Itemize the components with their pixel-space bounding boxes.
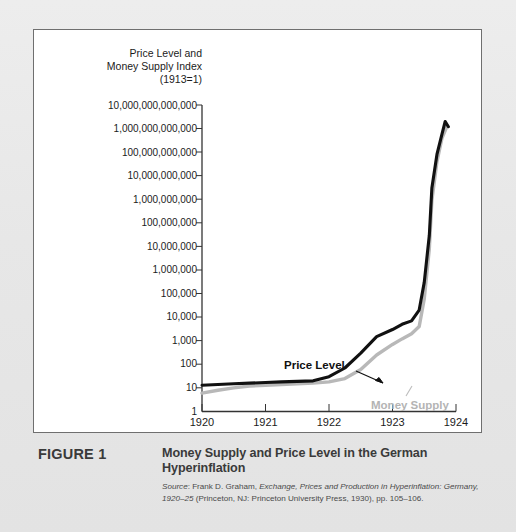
xtick-label: 1922 [317,416,341,428]
ytick-label: 1,000,000,000 [133,194,197,205]
ytick-label: 10,000,000,000,000 [108,100,197,111]
leader-arrow-price-level [376,378,384,384]
ytick-label: 10 [186,382,198,393]
source-work-years: 1920–25 [162,494,194,503]
axis-title-line-1: Price Level and [130,47,203,59]
annotation-money-supply: Money Supply [371,399,450,411]
axis-title-line-3: (1913=1) [160,73,202,85]
ytick-label: 1,000,000,000,000 [114,123,198,134]
ytick-label: 1,000,000 [153,264,198,275]
ytick-label: 1,000 [172,335,197,346]
ytick-label: 10,000,000,000 [127,170,197,181]
xtick-label: 1923 [380,416,404,428]
chart-panel: Price Level and Money Supply Index (1913… [33,29,482,433]
xtick-label: 1924 [444,416,468,428]
xtick-label: 1920 [190,416,214,428]
figure-number-label: FIGURE 1 [38,446,106,462]
ytick-label: 10,000 [166,311,197,322]
y-axis-ticks: 10,000,000,000,000 1,000,000,000,000 100… [108,100,202,417]
ytick-label: 100 [180,358,197,369]
figure-source: Source: Frank D. Graham, Exchange, Price… [162,481,492,504]
page-background: Price Level and Money Supply Index (1913… [0,0,516,532]
annotation-price-level: Price Level [284,359,345,371]
hyperinflation-line-chart: Price Level and Money Supply Index (1913… [34,30,483,434]
source-author: : Frank D. Graham, [188,482,260,491]
axis-title-line-2: Money Supply Index [107,60,203,72]
source-work-title: Exchange, Prices and Production in Hyper… [259,482,478,491]
series-line-price-level [202,121,448,385]
xtick-label: 1921 [253,416,277,428]
ytick-label: 100,000,000 [141,217,197,228]
ytick-label: 100,000 [161,288,198,299]
series-line-money-supply [202,128,446,394]
source-prefix: Source [162,482,188,491]
ytick-label: 100,000,000,000 [122,147,198,158]
leader-line-money-supply [406,386,412,396]
figure-title: Money Supply and Price Level in the Germ… [162,446,492,476]
ytick-label: 10,000,000 [147,241,197,252]
source-publication: (Princeton, NJ: Princeton University Pre… [194,494,424,503]
